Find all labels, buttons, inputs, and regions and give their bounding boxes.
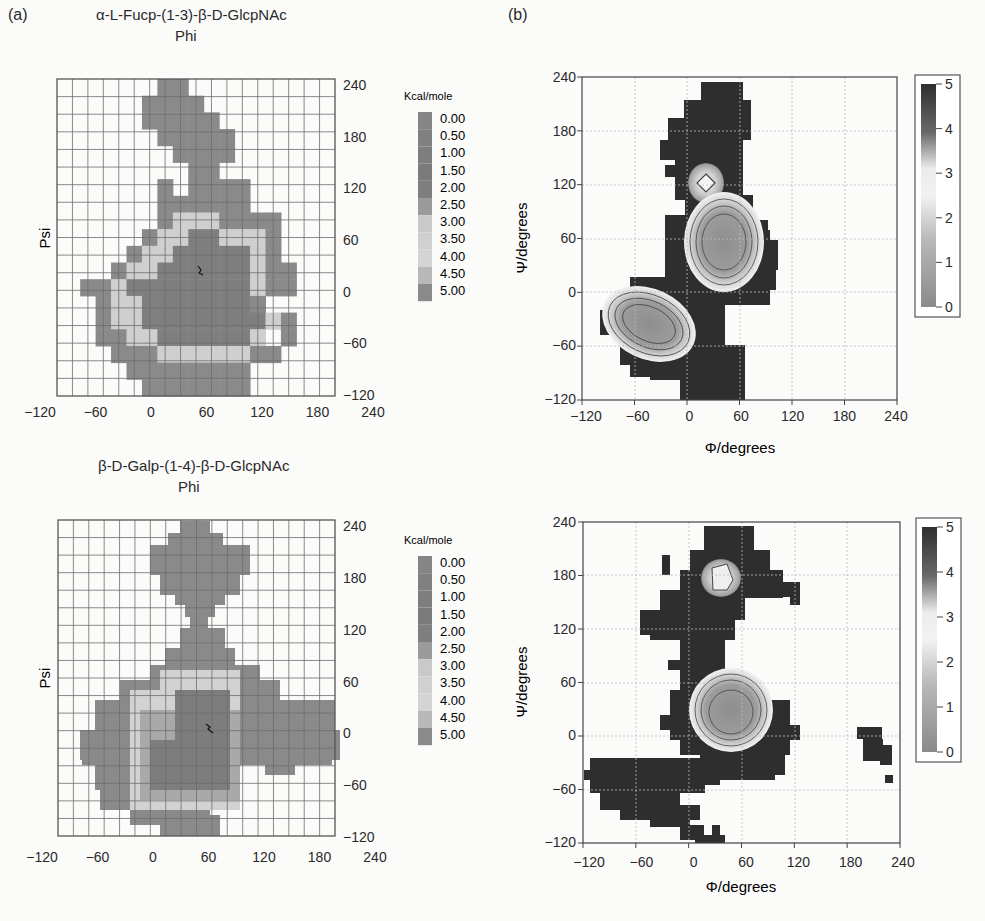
- grid-a-top: [57, 79, 335, 396]
- svg-text:1.00: 1.00: [440, 589, 465, 604]
- svg-text:60: 60: [343, 232, 359, 248]
- svg-text:2.50: 2.50: [440, 641, 465, 656]
- svg-text:2: 2: [945, 210, 953, 226]
- svg-text:−60: −60: [552, 781, 576, 797]
- svg-text:0: 0: [147, 404, 155, 420]
- svg-text:240: 240: [553, 69, 577, 85]
- svg-text:4.50: 4.50: [440, 266, 465, 281]
- svg-text:240: 240: [553, 514, 577, 530]
- svg-text:180: 180: [343, 570, 367, 586]
- svg-text:−120: −120: [24, 404, 56, 420]
- svg-text:120: 120: [343, 622, 367, 638]
- svg-text:0: 0: [690, 854, 698, 870]
- svg-text:1.50: 1.50: [440, 163, 465, 178]
- svg-text:4.50: 4.50: [440, 710, 465, 725]
- svg-text:−60: −60: [552, 337, 576, 353]
- svg-text:120: 120: [343, 180, 367, 196]
- svg-text:0: 0: [343, 725, 351, 741]
- svg-text:60: 60: [560, 674, 576, 690]
- svg-text:3.50: 3.50: [440, 675, 465, 690]
- svg-text:−120: −120: [26, 849, 58, 865]
- colorbar-b-bottom: [916, 518, 961, 762]
- svg-text:3: 3: [945, 165, 953, 181]
- svg-text:5: 5: [946, 519, 954, 535]
- svg-text:3.00: 3.00: [440, 658, 465, 673]
- svg-text:0: 0: [568, 284, 576, 300]
- svg-text:2: 2: [946, 654, 954, 670]
- svg-text:Kcal/mole: Kcal/mole: [404, 534, 452, 546]
- svg-text:60: 60: [733, 408, 749, 424]
- y-axis-label-a-bottom: Psi: [36, 668, 53, 689]
- svg-text:−60: −60: [626, 408, 650, 424]
- svg-text:0: 0: [945, 299, 953, 315]
- svg-text:4.00: 4.00: [440, 693, 465, 708]
- svg-text:5.00: 5.00: [440, 727, 465, 742]
- energy-legend-a-bottom: Kcal/mole0.000.501.001.502.002.503.003.5…: [404, 534, 465, 745]
- svg-text:60: 60: [201, 849, 217, 865]
- svg-text:4: 4: [945, 121, 953, 137]
- svg-text:1: 1: [946, 699, 954, 715]
- svg-text:180: 180: [308, 849, 332, 865]
- svg-text:3.50: 3.50: [440, 231, 465, 246]
- svg-text:0.00: 0.00: [440, 111, 465, 126]
- svg-text:60: 60: [199, 404, 215, 420]
- svg-text:240: 240: [363, 849, 387, 865]
- figure-canvas: Kcal/mole0.000.501.001.502.002.503.003.5…: [0, 0, 985, 921]
- svg-text:60: 60: [343, 674, 359, 690]
- svg-text:−60: −60: [343, 335, 367, 351]
- svg-text:3: 3: [946, 609, 954, 625]
- svg-text:240: 240: [343, 518, 367, 534]
- svg-text:0.50: 0.50: [440, 128, 465, 143]
- svg-text:4: 4: [946, 564, 954, 580]
- energy-legend-a-top: Kcal/mole0.000.501.001.502.002.503.003.5…: [404, 90, 465, 301]
- svg-text:180: 180: [553, 123, 577, 139]
- svg-text:−60: −60: [343, 777, 367, 793]
- svg-text:Kcal/mole: Kcal/mole: [404, 90, 452, 102]
- svg-text:−120: −120: [570, 408, 602, 424]
- svg-text:180: 180: [839, 854, 863, 870]
- svg-text:0: 0: [946, 744, 954, 760]
- svg-text:−120: −120: [343, 829, 375, 845]
- svg-text:0: 0: [149, 849, 157, 865]
- colorbar-b-top: [915, 75, 960, 317]
- svg-text:0: 0: [568, 727, 576, 743]
- y-axis-label-b-bottom: Ψ/degrees: [513, 647, 530, 718]
- heatmap-a-bottom: [80, 521, 340, 836]
- svg-text:0: 0: [685, 408, 693, 424]
- y-axis-label-a-top: Psi: [36, 228, 53, 249]
- svg-text:2.00: 2.00: [440, 180, 465, 195]
- svg-text:180: 180: [553, 567, 577, 583]
- svg-text:−120: −120: [343, 387, 375, 403]
- svg-text:60: 60: [738, 854, 754, 870]
- svg-text:2.00: 2.00: [440, 624, 465, 639]
- svg-text:120: 120: [252, 849, 276, 865]
- svg-text:−120: −120: [544, 391, 576, 407]
- svg-text:−60: −60: [84, 404, 108, 420]
- x-axis-label-b-top: Φ/degrees: [705, 439, 775, 456]
- svg-text:120: 120: [787, 854, 811, 870]
- svg-text:1.00: 1.00: [440, 145, 465, 160]
- svg-text:60: 60: [560, 230, 576, 246]
- svg-text:0.50: 0.50: [440, 572, 465, 587]
- svg-text:−120: −120: [573, 854, 605, 870]
- svg-text:3.00: 3.00: [440, 214, 465, 229]
- svg-text:1.50: 1.50: [440, 607, 465, 622]
- svg-text:0: 0: [343, 284, 351, 300]
- svg-text:240: 240: [884, 408, 908, 424]
- svg-text:120: 120: [250, 404, 274, 420]
- svg-text:180: 180: [343, 129, 367, 145]
- svg-text:240: 240: [343, 77, 367, 93]
- svg-text:120: 120: [553, 621, 577, 637]
- svg-text:120: 120: [781, 408, 805, 424]
- svg-text:−60: −60: [629, 854, 653, 870]
- svg-text:0.00: 0.00: [440, 555, 465, 570]
- svg-text:180: 180: [306, 404, 330, 420]
- svg-text:240: 240: [891, 854, 915, 870]
- svg-text:−60: −60: [86, 849, 110, 865]
- svg-text:240: 240: [361, 404, 385, 420]
- heatmap-b-top: [590, 82, 778, 400]
- x-axis-label-b-bottom: Φ/degrees: [706, 878, 776, 895]
- svg-text:5: 5: [945, 76, 953, 92]
- svg-text:−120: −120: [544, 834, 576, 850]
- svg-text:4.00: 4.00: [440, 249, 465, 264]
